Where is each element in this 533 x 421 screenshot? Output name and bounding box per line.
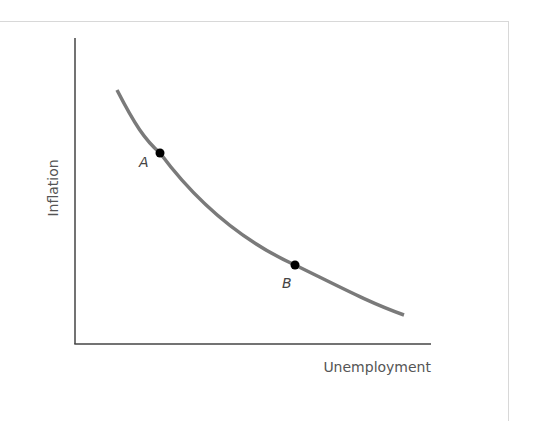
y-axis-label: Inflation [45, 159, 61, 216]
phillips-curve [117, 90, 404, 315]
point-a-label: A [138, 154, 149, 170]
point-b-label: B [282, 275, 292, 291]
x-axis-label: Unemployment [323, 359, 431, 375]
point-a-marker [156, 149, 165, 158]
point-b-marker [291, 261, 300, 270]
